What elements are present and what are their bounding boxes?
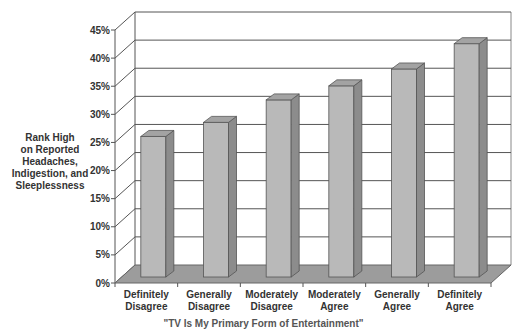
x-tick-label: Generally — [186, 289, 232, 300]
bars — [141, 38, 487, 277]
y-tick-label: 40% — [90, 53, 110, 64]
chart-floor — [115, 265, 511, 283]
x-axis-title: "TV Is My Primary Form of Entertainment" — [0, 318, 527, 329]
y-tick-label: 20% — [90, 165, 110, 176]
y-tick-label: 5% — [96, 249, 111, 260]
y-tick-label: 10% — [90, 221, 110, 232]
x-tick-label: Definitely — [124, 289, 169, 300]
x-axis-ticks: DefinitelyDisagreeGenerallyDisagreeModer… — [115, 283, 491, 312]
x-tick-label: Disagree — [125, 301, 168, 312]
x-tick-label: Moderately — [308, 289, 361, 300]
bar — [204, 116, 237, 277]
x-tick-label: Agree — [383, 301, 412, 312]
y-tick-label: 15% — [90, 193, 110, 204]
x-tick-label: Disagree — [251, 301, 294, 312]
x-tick-label: Agree — [320, 301, 349, 312]
bar — [454, 38, 487, 277]
y-tick-label: 45% — [90, 25, 110, 36]
bar — [266, 94, 299, 277]
x-tick-label: Definitely — [437, 289, 482, 300]
x-tick-label: Generally — [374, 289, 420, 300]
x-tick-label: Agree — [445, 301, 474, 312]
y-tick-label: 30% — [90, 109, 110, 120]
y-tick-label: 35% — [90, 81, 110, 92]
bar — [392, 63, 425, 277]
y-axis-ticks: 0%5%10%15%20%25%30%35%40%45% — [90, 25, 110, 289]
x-tick-label: Disagree — [188, 301, 231, 312]
y-tick-label: 25% — [90, 137, 110, 148]
bar — [329, 80, 362, 277]
y-tick-label: 0% — [96, 278, 111, 289]
bar — [141, 130, 174, 277]
x-tick-label: Moderately — [245, 289, 298, 300]
